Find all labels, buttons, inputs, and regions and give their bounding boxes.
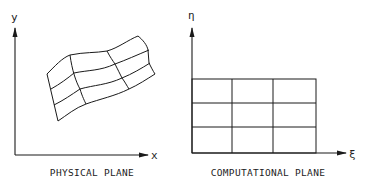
grid-bottom-boundary xyxy=(58,74,155,121)
computational-eta-axis-label: η xyxy=(188,9,195,22)
grid-eta-line-1 xyxy=(51,50,149,89)
computational-xi-axis-label: ξ xyxy=(349,148,356,161)
grid-xi-line-1 xyxy=(70,55,86,104)
physical-curvilinear-grid xyxy=(47,36,155,121)
grid-left-boundary xyxy=(47,74,58,121)
physical-y-axis-label: y xyxy=(11,11,18,24)
computational-plane-caption: COMPUTATIONAL PLANE xyxy=(211,167,325,178)
grid-xi-line-2 xyxy=(107,51,129,89)
computational-rectangular-grid xyxy=(192,79,316,153)
physical-plane-caption: PHYSICAL PLANE xyxy=(50,167,134,178)
computational-plane-panel: η ξ COMPUTATIONAL PLANE xyxy=(188,9,356,178)
grid-transformation-diagram: y x PHYSICAL PLANE η ξ COMPUTAT xyxy=(0,0,368,188)
grid-outline xyxy=(192,79,316,153)
physical-plane-panel: y x PHYSICAL PLANE xyxy=(11,11,158,178)
physical-x-axis-label: x xyxy=(151,149,158,162)
